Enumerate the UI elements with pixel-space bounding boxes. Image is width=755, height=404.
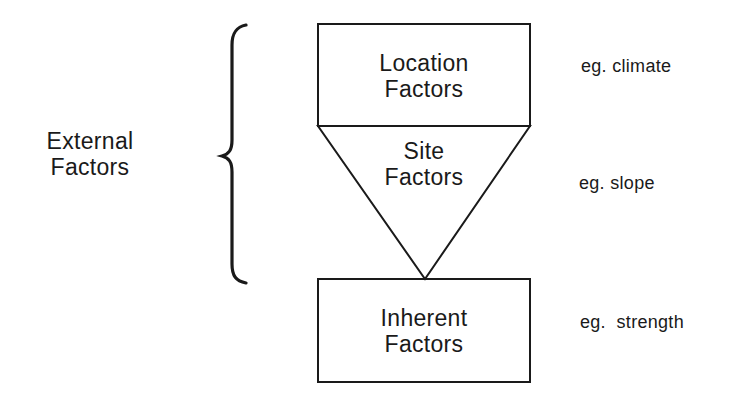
location-factors-line1: Location <box>318 50 530 76</box>
external-factors-line2: Factors <box>25 154 155 180</box>
inherent-factors-line2: Factors <box>318 331 530 357</box>
example-location: eg. climate <box>581 56 671 77</box>
location-factors-line2: Factors <box>318 76 530 102</box>
site-factors-line1: Site <box>318 138 530 164</box>
inherent-factors-label: Inherent Factors <box>318 305 530 357</box>
site-factors-line2: Factors <box>318 164 530 190</box>
external-factors-label: External Factors <box>25 128 155 180</box>
site-factors-label: Site Factors <box>318 138 530 190</box>
example-inherent: eg. strength <box>580 312 684 333</box>
inherent-factors-line1: Inherent <box>318 305 530 331</box>
external-factors-line1: External <box>25 128 155 154</box>
example-site: eg. slope <box>579 173 655 194</box>
curly-brace-icon <box>222 25 246 283</box>
location-factors-label: Location Factors <box>318 50 530 102</box>
